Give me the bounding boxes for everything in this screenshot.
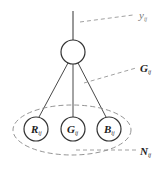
diagram-canvas: yij Gij Nij Rij Gij Bij [0,0,164,169]
output-leader-line [80,15,133,22]
edge-to-b [78,63,106,117]
edge-to-r [39,63,68,117]
neighborhood-label: Nij [139,145,152,158]
gray-node [61,40,85,64]
gray-node-label: Gij [140,62,152,75]
output-label: yij [138,9,148,22]
gray-leader-line [84,68,136,83]
